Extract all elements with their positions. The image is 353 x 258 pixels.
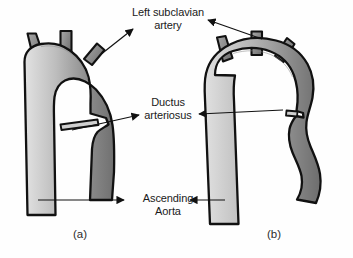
label-ductus-arteriosus-line1: Ductus bbox=[126, 96, 210, 109]
label-left-subclavian-artery-line1: Left subclavian bbox=[116, 6, 220, 19]
caption-panel-a: (a) bbox=[58, 228, 102, 240]
label-ductus-arteriosus: Ductus arteriosus bbox=[126, 96, 210, 121]
panel-b-ductus-arteriosus bbox=[286, 111, 298, 117]
label-left-subclavian-artery-line2: artery bbox=[116, 19, 220, 32]
panel-b-aorta-body bbox=[205, 38, 321, 224]
label-ascending-aorta-line2: Aorta bbox=[128, 205, 208, 218]
label-ascending-aorta-line1: Ascending bbox=[128, 192, 208, 205]
caption-panel-b: (b) bbox=[252, 228, 296, 240]
subclavian-arrow-a bbox=[102, 29, 133, 54]
aortic-arch-figure: Left subclavian artery Ductus arteriosus… bbox=[0, 0, 353, 258]
panel-b-vessel-group bbox=[205, 32, 321, 225]
panel-a-left-subclavian-branch bbox=[84, 44, 105, 66]
label-ductus-arteriosus-line2: arteriosus bbox=[126, 109, 210, 122]
label-left-subclavian-artery: Left subclavian artery bbox=[116, 6, 220, 31]
label-ascending-aorta: Ascending Aorta bbox=[128, 192, 208, 217]
vessel-illustration-layer bbox=[0, 0, 353, 258]
